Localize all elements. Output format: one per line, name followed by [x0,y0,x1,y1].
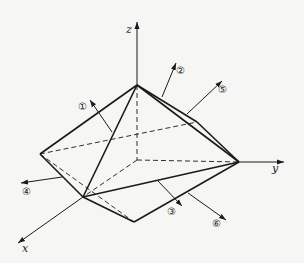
y-axis-label: y [271,162,279,175]
normal-6-arrow [188,193,226,220]
x-axis-label: x [22,242,29,255]
normal-1-label: ① [78,101,87,112]
x-axis [18,197,83,243]
normal-4-arrow [21,177,62,183]
normal-3-label: ③ [167,206,176,217]
normal-vectors [21,63,226,220]
axes: z y x [18,22,284,255]
normal-6-label: ⑥ [212,218,221,229]
normal-labels: ① ② ③ ④ ⑤ ⑥ [22,65,227,229]
normal-5-arrow [187,81,222,114]
normal-4-label: ④ [22,186,31,197]
z-axis-label: z [125,23,132,36]
normal-5-label: ⑤ [218,84,227,95]
normal-2-label: ② [176,65,185,76]
normal-2-arrow [162,63,176,97]
visible-edges [40,85,239,222]
polyhedron-diagram: z y x ① ② ③ ④ ⑤ ⑥ [0,0,304,263]
hidden-edges [40,85,239,222]
